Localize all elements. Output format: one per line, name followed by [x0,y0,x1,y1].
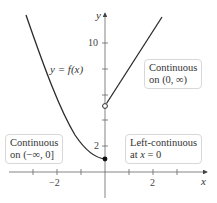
annotation-right-line1: Continuous [149,62,197,74]
curve-label-arg: (x) [71,63,83,75]
annotation-left-continuous: Left-continuous at x = 0 [125,134,202,164]
y-tick-label-10: 10 [88,38,98,48]
annotation-point-line1: Left-continuous [130,137,197,149]
annotation-point-prefix: at [130,149,140,160]
filled-endpoint [103,157,108,162]
annotation-left-line2: on (−∞, 0] [10,149,58,161]
annotation-point-line2: at x = 0 [130,149,197,161]
annotation-point-suffix: = 0 [145,149,161,160]
y-axis-label: y [96,9,101,21]
annotation-left-line1: Continuous [10,137,58,149]
graph-canvas [0,0,217,203]
y-tick-label-2: 2 [94,141,99,151]
x-axis-label: x [201,175,206,187]
curve-label-prefix: y = [50,63,68,75]
curve-label: y = f(x) [50,63,83,75]
x-tick-label-neg2: −2 [49,178,60,188]
annotation-right-line2: on (0, ∞) [149,74,197,86]
open-endpoint [103,104,108,109]
x-tick-label-2: 2 [150,178,155,188]
annotation-continuous-left: Continuous on (−∞, 0] [5,134,63,164]
annotation-continuous-right: Continuous on (0, ∞) [144,59,202,89]
